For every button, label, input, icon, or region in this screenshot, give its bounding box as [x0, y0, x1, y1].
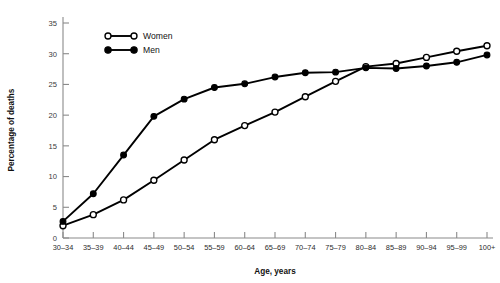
data-point-women	[302, 94, 308, 100]
x-axis-tick-label: 70–74	[295, 243, 316, 252]
data-point-men	[242, 81, 248, 87]
y-axis-tick-label: 30	[49, 50, 57, 59]
data-point-men	[333, 69, 339, 75]
x-axis: 30–3435–3940–4445–4950–5455–5960–6465–69…	[53, 232, 496, 252]
x-axis-title: Age, years	[254, 267, 296, 276]
data-point-men	[151, 113, 157, 119]
data-point-men	[302, 70, 308, 76]
data-point-women	[151, 177, 157, 183]
y-axis: 05101520253035	[49, 17, 69, 243]
x-axis-tick-label: 90–94	[416, 243, 437, 252]
x-axis-tick-label: 65–69	[265, 243, 286, 252]
x-axis-tick-label: 35–39	[83, 243, 104, 252]
data-point-women	[454, 48, 460, 54]
data-point-men	[90, 191, 96, 197]
y-axis-tick-label: 10	[49, 172, 57, 181]
x-axis-tick-label: 55–59	[204, 243, 225, 252]
x-axis-tick-label: 85–89	[386, 243, 407, 252]
data-point-women	[423, 54, 429, 60]
x-axis-tick-label: 60–64	[234, 243, 255, 252]
data-point-men	[272, 74, 278, 80]
plot-area	[60, 43, 490, 229]
legend-label-women: Women	[143, 31, 173, 41]
y-axis-tick-label: 5	[53, 203, 57, 212]
data-point-women	[333, 78, 339, 84]
chart-canvas: 05101520253035 30–3435–3940–4445–4950–54…	[0, 0, 500, 283]
data-point-men	[424, 63, 430, 69]
chart-legend: WomenMen	[105, 31, 173, 55]
data-point-men	[484, 52, 490, 58]
y-axis-tick-label: 20	[49, 111, 57, 120]
legend-marker-men	[131, 47, 137, 53]
data-point-men	[363, 65, 369, 71]
x-axis-tick-label: 75–79	[325, 243, 346, 252]
data-point-women	[181, 157, 187, 163]
data-point-men	[60, 219, 66, 225]
data-point-women	[90, 212, 96, 218]
data-point-women	[121, 197, 127, 203]
data-point-men	[121, 152, 127, 158]
x-axis-tick-label: 30–34	[53, 243, 74, 252]
legend-marker-men	[105, 47, 111, 53]
x-axis-tick-label: 50–54	[174, 243, 195, 252]
data-point-men	[181, 96, 187, 102]
x-axis-tick-label: 80–84	[356, 243, 377, 252]
data-point-women	[242, 123, 248, 129]
legend-label-men: Men	[143, 45, 160, 55]
line-chart: 05101520253035 30–3435–3940–4445–4950–54…	[0, 0, 500, 283]
y-axis-tick-label: 35	[49, 19, 57, 28]
y-axis-tick-label: 15	[49, 142, 57, 151]
y-axis-title: Percentage of deaths	[7, 88, 16, 171]
x-axis-tick-label: 45–49	[144, 243, 165, 252]
x-axis-tick-label: 40–44	[113, 243, 134, 252]
x-axis-tick-label: 100+	[479, 243, 496, 252]
legend-marker-women	[105, 33, 111, 39]
y-axis-tick-label: 25	[49, 80, 57, 89]
data-point-men	[454, 59, 460, 65]
data-point-men	[393, 66, 399, 72]
x-axis-tick-label: 95–99	[446, 243, 467, 252]
y-axis-tick-label: 0	[53, 234, 57, 243]
data-point-women	[272, 109, 278, 115]
data-point-men	[212, 85, 218, 91]
data-point-women	[484, 43, 490, 49]
data-point-women	[211, 137, 217, 143]
legend-marker-women	[131, 33, 137, 39]
